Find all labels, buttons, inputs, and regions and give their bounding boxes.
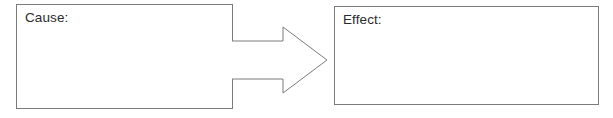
cause-label: Cause: [25,10,68,26]
right-arrow-icon [225,18,335,102]
cause-box[interactable]: Cause: [16,4,233,109]
cause-effect-diagram: Cause: Effect: [0,0,613,118]
effect-label: Effect: [343,12,382,28]
effect-box[interactable]: Effect: [334,6,599,105]
arrow-outline [232,27,327,93]
arrow-joint-mask [231,43,234,78]
